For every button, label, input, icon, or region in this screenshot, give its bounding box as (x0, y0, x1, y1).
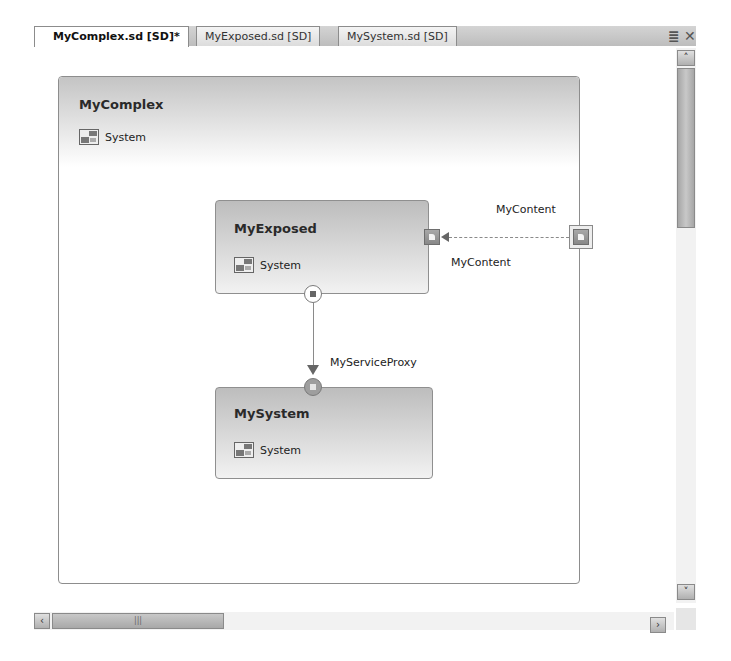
system-icon (79, 129, 99, 145)
connector-label-outer: MyContent (496, 203, 556, 216)
tab-label: MySystem.sd [SD] (347, 30, 448, 43)
system-icon (234, 442, 254, 458)
system-label: System (260, 259, 301, 272)
content-connector-line[interactable] (449, 237, 569, 238)
document-tab-strip: MyComplex.sd [SD]* MyExposed.sd [SD] MyS… (34, 26, 696, 46)
tab-dropdown-icon[interactable]: ≣ (668, 27, 680, 45)
system-label: System (105, 131, 146, 144)
tab-label: MyComplex.sd [SD]* (53, 30, 180, 43)
scroll-right-button[interactable]: › (650, 617, 666, 633)
service-proxy-source-port-icon[interactable] (304, 285, 322, 303)
tab-mycomplex[interactable]: MyComplex.sd [SD]* (34, 26, 189, 47)
system-row: System (79, 129, 146, 145)
content-consumer-port-icon[interactable] (424, 229, 440, 245)
component-mycomplex[interactable]: MyComplex System (58, 76, 580, 584)
tab-mysystem[interactable]: MySystem.sd [SD] (338, 26, 457, 46)
service-proxy-target-port-icon[interactable] (304, 378, 322, 396)
vertical-scrollbar[interactable]: ˄ ˅ (676, 48, 696, 603)
horizontal-scrollbar[interactable]: ‹ ||| › (34, 612, 674, 630)
proxy-connector-line[interactable] (313, 303, 314, 367)
connector-label-proxy: MyServiceProxy (330, 356, 417, 369)
component-title: MyExposed (234, 221, 317, 236)
horizontal-scroll-thumb[interactable]: ||| (52, 613, 224, 629)
tab-myexposed[interactable]: MyExposed.sd [SD] (196, 26, 320, 46)
tab-slant (35, 27, 49, 47)
vertical-scroll-thumb[interactable] (677, 68, 695, 228)
system-row: System (234, 442, 301, 458)
component-title: MyComplex (79, 97, 163, 112)
scroll-left-button[interactable]: ‹ (34, 613, 50, 629)
system-row: System (234, 257, 301, 273)
scrollbar-corner (676, 608, 696, 630)
connector-label-inner: MyContent (451, 256, 511, 269)
close-tab-icon[interactable]: ✕ (684, 27, 696, 45)
system-icon (234, 257, 254, 273)
tab-label: MyExposed.sd [SD] (205, 30, 311, 43)
scroll-down-button[interactable]: ˅ (677, 584, 695, 600)
content-provider-port-icon[interactable] (573, 229, 589, 245)
arrow-down-icon (307, 365, 319, 375)
component-header (59, 77, 579, 167)
scroll-up-button[interactable]: ˄ (677, 50, 695, 66)
system-label: System (260, 444, 301, 457)
component-title: MySystem (234, 406, 310, 421)
arrow-left-icon (441, 232, 449, 242)
component-myexposed[interactable]: MyExposed System (215, 200, 429, 294)
component-mysystem[interactable]: MySystem System (215, 387, 433, 479)
